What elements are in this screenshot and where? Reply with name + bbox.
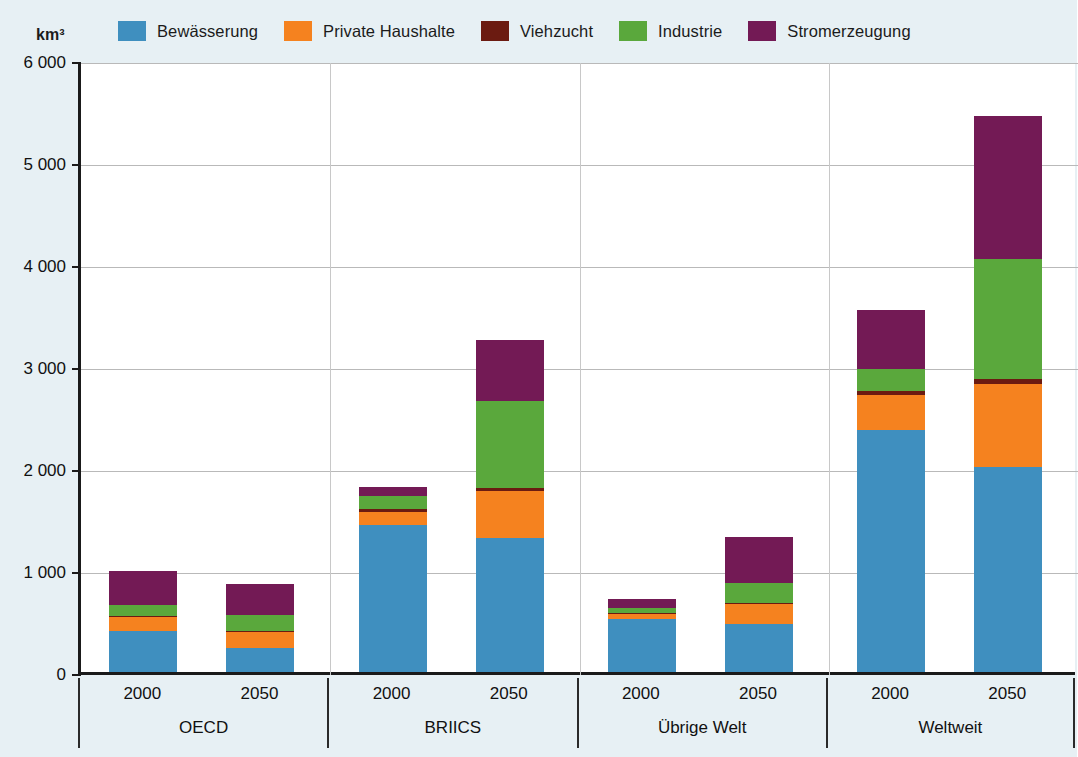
y-tick-mark-2000 (72, 470, 81, 472)
group-separator-3 (829, 63, 830, 675)
y-tick-mark-5000 (72, 164, 81, 166)
group-separator-2 (580, 63, 581, 675)
y-tick-label-0: 0 (0, 665, 66, 685)
bar-segment-bew-sserung (974, 467, 1042, 672)
bar-oecd-2000 (109, 571, 177, 672)
bar-segment-bew-sserung (857, 430, 925, 672)
bar-segment-industrie (974, 259, 1042, 379)
x-axis: 20002050OECD20002050BRIICS20002050Übrige… (78, 678, 1075, 754)
y-tick-mark-6000 (72, 62, 81, 64)
bar-briics-2050 (476, 340, 544, 672)
bar-segment-private-haushalte (974, 384, 1042, 467)
bar-segment-stromerzeugung (608, 599, 676, 608)
bar-übrige-welt-2000 (608, 599, 676, 672)
bar-segment-private-haushalte (359, 512, 427, 525)
bar-segment-industrie (359, 496, 427, 509)
bar-segment-private-haushalte (476, 491, 544, 538)
y-tick-label-4000: 4 000 (0, 257, 66, 277)
x-group-weltweit: 20002050Weltweit (826, 678, 1075, 748)
bar-segment-stromerzeugung (725, 537, 793, 583)
bar-oecd-2050 (226, 584, 294, 672)
bar-segment-industrie (109, 605, 177, 616)
bar-segment-stromerzeugung (359, 487, 427, 496)
bar-segment-private-haushalte (725, 604, 793, 624)
group-separator-1 (330, 63, 331, 675)
x-group-label-briics: BRIICS (329, 718, 576, 738)
x-group-oecd: 20002050OECD (78, 678, 327, 748)
x-group-label-übrige-welt: Übrige Welt (579, 718, 826, 738)
bar-briics-2000 (359, 487, 427, 672)
bar-segment-industrie (476, 401, 544, 489)
y-tick-label-2000: 2 000 (0, 461, 66, 481)
bar-weltweit-2050 (974, 116, 1042, 672)
y-tick-label-5000: 5 000 (0, 155, 66, 175)
x-group-briics: 20002050BRIICS (327, 678, 576, 748)
bar-segment-stromerzeugung (974, 116, 1042, 259)
bar-segment-stromerzeugung (857, 310, 925, 369)
x-year-label-briics-2000: 2000 (337, 684, 447, 704)
y-tick-mark-1000 (72, 572, 81, 574)
bar-segment-industrie (857, 369, 925, 390)
bar-segment-bew-sserung (109, 631, 177, 672)
x-group-label-oecd: OECD (80, 718, 327, 738)
y-tick-label-6000: 6 000 (0, 53, 66, 73)
y-tick-label-1000: 1 000 (0, 563, 66, 583)
y-tick-mark-0 (72, 674, 81, 676)
bar-segment-stromerzeugung (226, 584, 294, 615)
y-tick-mark-3000 (72, 368, 81, 370)
bar-segment-private-haushalte (857, 395, 925, 431)
bar-segment-bew-sserung (608, 619, 676, 672)
x-year-label-briics-2050: 2050 (454, 684, 564, 704)
bar-weltweit-2000 (857, 310, 925, 672)
x-year-label-oecd-2050: 2050 (204, 684, 314, 704)
x-year-label-weltweit-2050: 2050 (952, 684, 1062, 704)
y-tick-mark-4000 (72, 266, 81, 268)
x-group-label-weltweit: Weltweit (828, 718, 1073, 738)
bar-segment-bew-sserung (359, 525, 427, 672)
bar-segment-private-haushalte (109, 617, 177, 631)
bar-segment-stromerzeugung (476, 340, 544, 401)
bar-segment-stromerzeugung (109, 571, 177, 605)
plot-area: 01 0002 0003 0004 0005 0006 000 (78, 63, 1075, 675)
bar-segment-private-haushalte (226, 632, 294, 648)
x-year-label-übrige-welt-2000: 2000 (586, 684, 696, 704)
bar-übrige-welt-2050 (725, 537, 793, 672)
x-year-label-oecd-2000: 2000 (87, 684, 197, 704)
bar-segment-industrie (725, 583, 793, 603)
bar-segment-bew-sserung (476, 538, 544, 672)
x-year-label-weltweit-2000: 2000 (835, 684, 945, 704)
x-year-label-übrige-welt-2050: 2050 (703, 684, 813, 704)
bar-segment-bew-sserung (725, 624, 793, 672)
y-tick-label-3000: 3 000 (0, 359, 66, 379)
bar-segment-industrie (226, 615, 294, 631)
bar-segment-bew-sserung (226, 648, 294, 672)
x-group-übrige-welt: 20002050Übrige Welt (577, 678, 826, 748)
